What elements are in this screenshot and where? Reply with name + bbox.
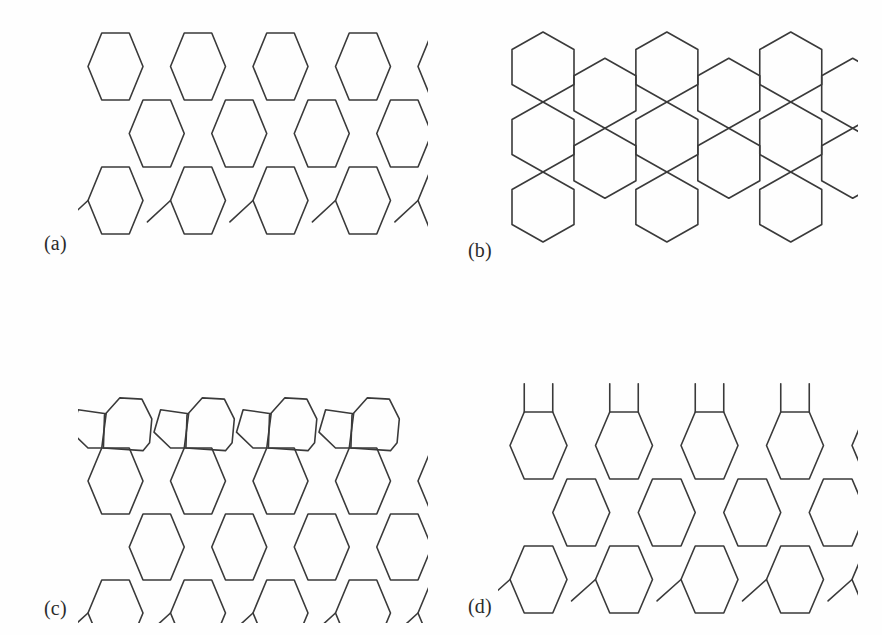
lattice-edge [760,32,822,102]
panel-b-svg [498,22,858,262]
panel-c-lattice [78,388,428,623]
panel-c-lattice-paths [78,398,428,623]
lattice-edge [78,613,88,623]
lattice-edge [572,580,596,601]
panel-d-lattice-paths [498,384,858,613]
lattice-edge [237,410,272,448]
lattice-edge [395,201,418,222]
lattice-edge [681,546,738,613]
lattice-edge [574,128,636,198]
lattice-edge [512,172,574,242]
lattice-edge [512,32,574,102]
lattice-edge [253,33,308,100]
lattice-edge [171,448,226,514]
lattice-edge [253,448,308,514]
lattice-edge [636,32,698,102]
lattice-edge [596,412,653,479]
lattice-edge [698,128,760,198]
lattice-edge [681,412,738,479]
panel-c-label: (c) [44,598,67,618]
lattice-edge [78,410,106,448]
panel-a-lattice [78,22,428,252]
lattice-edge [336,448,391,514]
lattice-edge [498,580,510,601]
lattice-edge [186,398,234,451]
panel-b-label: (b) [468,240,492,260]
lattice-edge [253,580,308,623]
panel-a-svg [78,22,428,252]
lattice-edge [636,172,698,242]
lattice-edge [154,410,189,448]
lattice-edge [171,33,226,100]
lattice-edge [294,100,349,167]
panel-b-lattice [498,22,858,262]
lattice-edge [88,580,143,623]
lattice-edge [698,58,760,128]
lattice-edge [418,580,428,623]
lattice-edge [657,580,681,601]
lattice-edge [88,33,143,100]
lattice-edge [767,412,824,479]
lattice-edge [809,479,858,546]
lattice-edge [129,514,184,580]
lattice-edge [312,201,335,222]
lattice-edge [377,514,428,580]
lattice-edge [822,128,858,198]
lattice-edge [852,546,858,613]
lattice-edge [230,613,253,623]
lattice-edge [574,58,636,128]
lattice-edge [336,580,391,623]
lattice-edge [510,546,567,613]
lattice-edge [638,479,695,546]
lattice-edge [103,398,151,451]
lattice-edge [336,167,391,234]
lattice-edge [418,33,428,100]
lattice-edge [212,100,267,167]
lattice-edge [760,102,822,172]
lattice-edge [319,410,354,448]
lattice-edge [147,613,170,623]
lattice-edge [129,100,184,167]
lattice-edge [395,613,418,623]
lattice-edge [418,448,428,514]
lattice-edge [312,613,335,623]
lattice-edge [78,201,88,222]
lattice-edge [212,514,267,580]
lattice-edge [377,100,428,167]
lattice-edge [760,172,822,242]
lattice-edge [828,580,852,601]
panel-a-label: (a) [44,233,67,253]
panel-d-lattice [498,382,858,627]
lattice-edge [596,546,653,613]
panel-a-lattice-paths [78,33,428,234]
lattice-edge [512,102,574,172]
lattice-edge [171,580,226,623]
lattice-edge [767,546,824,613]
lattice-edge [553,479,610,546]
lattice-edge [336,33,391,100]
lattice-edge [636,102,698,172]
lattice-edge [88,167,143,234]
lattice-edge [294,514,349,580]
lattice-edge [743,580,767,601]
lattice-edge [268,398,316,451]
panel-c-svg [78,388,428,623]
lattice-edge [418,167,428,234]
lattice-edge [147,201,170,222]
lattice-edge [852,412,858,479]
lattice-edge [171,167,226,234]
lattice-edge [230,201,253,222]
lattice-edge [822,58,858,128]
lattice-edge [351,398,399,451]
lattice-edge [724,479,781,546]
lattice-edge [88,448,143,514]
panel-d-svg [498,382,858,627]
figure-canvas: (a) (b) (c) (d) [0,0,882,635]
panel-d-label: (d) [468,596,492,616]
panel-b-lattice-paths [512,32,858,242]
lattice-edge [253,167,308,234]
lattice-edge [510,412,567,479]
